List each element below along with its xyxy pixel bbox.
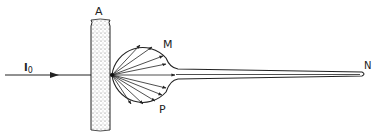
slab-A <box>91 19 110 131</box>
bulb-top-label: M <box>163 38 173 51</box>
incident-beam-label: I0 <box>24 62 33 75</box>
tube-end-label: N <box>364 60 371 71</box>
slab-label: A <box>95 5 103 18</box>
scattering-apparatus-diagram: I0 A M P N <box>0 0 379 135</box>
scattering-point <box>110 73 114 77</box>
scattered-rays <box>112 45 175 104</box>
beam-arrow-icon <box>50 72 59 78</box>
bulb-bottom-label: P <box>159 103 166 116</box>
